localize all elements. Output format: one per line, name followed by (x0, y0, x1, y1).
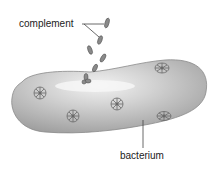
receptor-icon (111, 98, 123, 110)
bacterium-highlight (55, 80, 135, 92)
receptor-icon (157, 112, 171, 121)
receptor-icon (67, 110, 79, 122)
complement-label: complement (19, 18, 73, 29)
complement-leader-lines (82, 24, 104, 37)
bacterium-label: bacterium (120, 150, 164, 161)
bacterium-body (12, 60, 207, 133)
receptor-icon (155, 63, 169, 73)
receptor-icon (34, 87, 46, 99)
